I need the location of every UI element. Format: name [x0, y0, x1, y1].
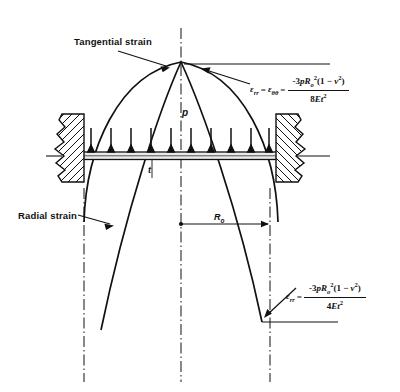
edge-eq-equals: = — [297, 292, 302, 302]
radius-label: Ro — [214, 212, 224, 224]
radial-strain-curve-left — [101, 62, 181, 330]
edge-eq-denominator: 4Et2 — [322, 298, 348, 312]
edge-eq-numerator: -3pRo2(1 − ν2) — [304, 281, 366, 298]
plate-strain-diagram — [0, 0, 400, 392]
pressure-label: p — [182, 107, 188, 118]
radius-subscript: o — [221, 217, 225, 224]
center-eq-lhs: εrr — [250, 84, 259, 96]
tangential-strain-leader — [118, 51, 170, 72]
tangential-strain-label: Tangential strain — [74, 36, 152, 47]
center-eq-equals-2: = — [280, 85, 285, 95]
pressure-arrows — [88, 128, 272, 152]
center-strain-equation: εrr = εθθ = -3pRo2(1 − ν2) 8Et2 — [250, 74, 349, 105]
plate-section — [64, 152, 296, 160]
center-eq-denominator: 8Et2 — [305, 91, 331, 105]
edge-eq-fraction: -3pRo2(1 − ν2) 4Et2 — [304, 281, 366, 312]
center-eq-fraction: -3pRo2(1 − ν2) 8Et2 — [288, 74, 350, 105]
center-eq-numerator: -3pRo2(1 − ν2) — [288, 74, 350, 91]
edge-eq-lhs: εrr — [286, 291, 295, 303]
edge-strain-equation: εrr = -3pRo2(1 − ν2) 4Et2 — [286, 281, 366, 312]
thickness-label: t — [148, 165, 151, 175]
center-eq-lhs-2: εθθ — [268, 84, 278, 96]
radial-strain-label: Radial strain — [18, 210, 77, 221]
center-eq-equals-1: = — [261, 85, 266, 95]
